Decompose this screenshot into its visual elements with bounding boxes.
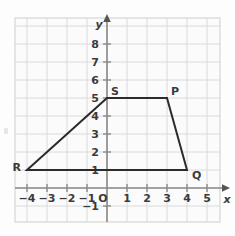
x-tick-label-4: 4 <box>183 192 191 205</box>
x-tick-label-1: 1 <box>123 192 131 205</box>
origin-label: O <box>98 192 107 205</box>
x-tick-label--3: −3 <box>39 192 56 205</box>
y-axis-label: y <box>95 18 103 31</box>
y-tick-label-3: 3 <box>91 128 99 141</box>
y-tick-label-5: 5 <box>91 92 99 105</box>
x-axis-label: x <box>222 193 231 206</box>
y-tick-label-7: 7 <box>91 56 99 69</box>
vertex-label-p: P <box>171 85 179 98</box>
y-tick-label-6: 6 <box>91 74 99 87</box>
coordinate-plane: −4 −3 −2 −1 1 2 3 4 5 O −1 1 2 3 4 5 6 7… <box>0 0 235 236</box>
vertex-label-r: R <box>13 161 22 174</box>
vertex-label-s: S <box>111 85 119 98</box>
x-tick-label-3: 3 <box>163 192 171 205</box>
x-tick-label--2: −2 <box>59 192 76 205</box>
x-tick-label-2: 2 <box>143 192 151 205</box>
x-axis-arrow-icon <box>222 184 230 192</box>
x-tick-label-5: 5 <box>203 192 211 205</box>
y-tick-label-8: 8 <box>91 38 99 51</box>
x-tick-label--4: −4 <box>19 192 36 205</box>
figure-container: −4 −3 −2 −1 1 2 3 4 5 O −1 1 2 3 4 5 6 7… <box>0 0 235 236</box>
y-tick-label-2: 2 <box>91 146 99 159</box>
y-tick-label--1: −1 <box>82 200 99 213</box>
vertex-label-q: Q <box>192 169 201 182</box>
